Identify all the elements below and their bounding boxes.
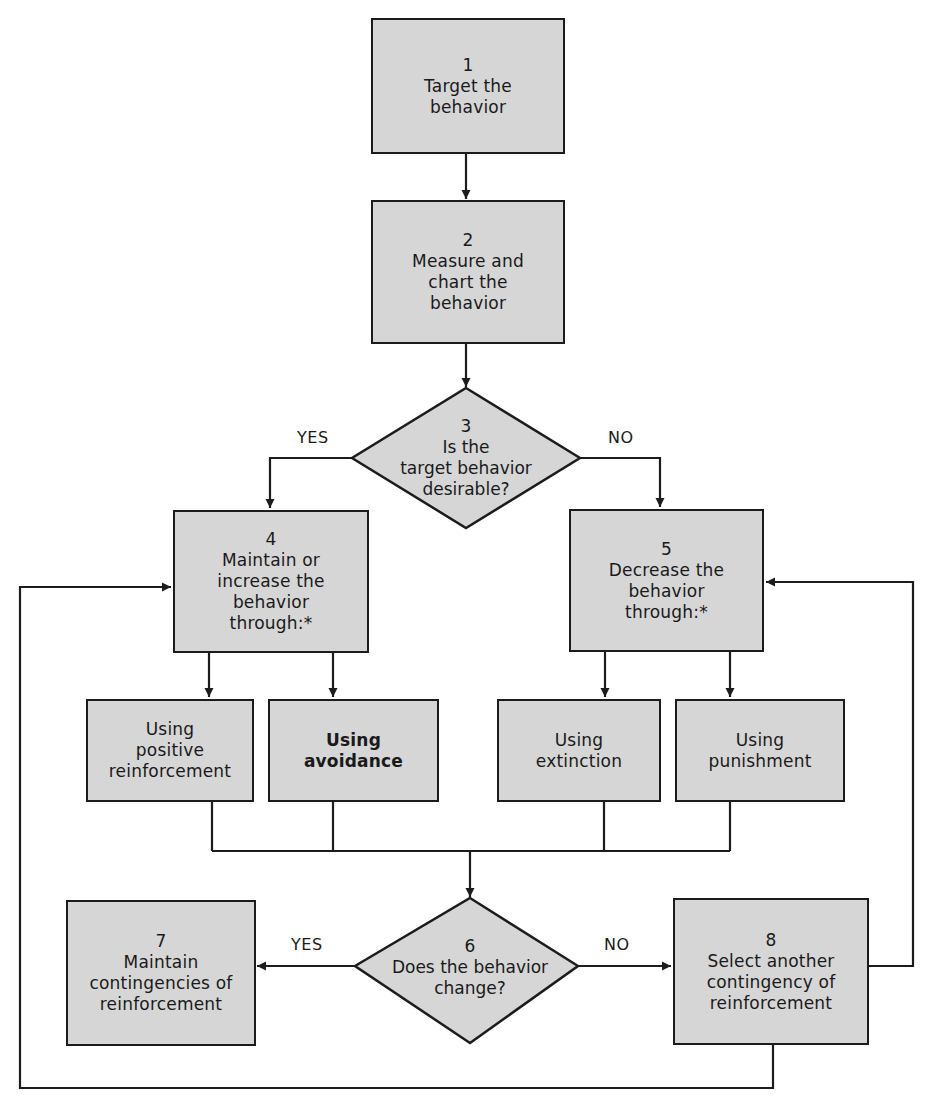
method-label: Using avoidance: [304, 730, 403, 772]
method-punishment: Using punishment: [675, 699, 845, 802]
step-number: 5: [661, 539, 672, 560]
decision-6-no-label: NO: [604, 935, 630, 954]
step-number: 8: [765, 930, 776, 951]
step-number: 2: [462, 230, 473, 251]
method-extinction: Using extinction: [497, 699, 661, 802]
step-number: 4: [265, 529, 276, 550]
method-label: Using extinction: [536, 730, 622, 772]
step-number: 1: [462, 55, 473, 76]
step-number: 3: [461, 416, 472, 437]
method-positive-reinforcement: Using positive reinforcement: [86, 699, 254, 802]
step-label: Is the target behavior desirable?: [400, 437, 532, 500]
step-label: Maintain contingencies of reinforcement: [89, 952, 232, 1015]
method-avoidance: Using avoidance: [268, 699, 439, 802]
step-label: Measure and chart the behavior: [412, 251, 524, 314]
step-2-measure-chart: 2 Measure and chart the behavior: [371, 200, 565, 344]
method-label: Using positive reinforcement: [109, 719, 231, 782]
step-label: Maintain or increase the behavior throug…: [217, 550, 324, 634]
decision-3-desirable: 3 Is the target behavior desirable?: [372, 400, 560, 516]
step-number: 6: [465, 936, 476, 957]
step-label: Decrease the behavior through:*: [609, 560, 724, 623]
flowchart: 1 Target the behavior 2 Measure and char…: [0, 0, 927, 1103]
step-5-decrease: 5 Decrease the behavior through:*: [569, 509, 764, 652]
step-label: Does the behavior change?: [392, 957, 548, 999]
step-1-target-behavior: 1 Target the behavior: [371, 18, 565, 154]
decision-6-behavior-change: 6 Does the behavior change?: [358, 925, 582, 1009]
edge-3-to-5: [580, 458, 660, 507]
method-label: Using punishment: [708, 730, 811, 772]
step-number: 7: [155, 931, 166, 952]
decision-3-no-label: NO: [608, 428, 634, 447]
decision-6-yes-label: YES: [291, 935, 323, 954]
step-label: Target the behavior: [424, 76, 512, 118]
decision-3-yes-label: YES: [297, 428, 329, 447]
step-8-select-another: 8 Select another contingency of reinforc…: [673, 898, 869, 1045]
step-7-maintain-contingencies: 7 Maintain contingencies of reinforcemen…: [66, 900, 256, 1046]
edge-3-to-4: [270, 458, 352, 508]
step-4-maintain-increase: 4 Maintain or increase the behavior thro…: [173, 510, 369, 653]
step-label: Select another contingency of reinforcem…: [707, 951, 836, 1014]
